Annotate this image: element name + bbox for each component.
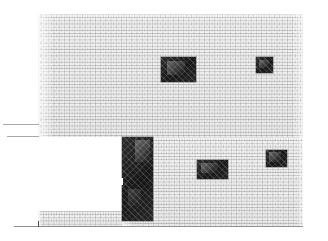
wall-fade-overlay: [38, 211, 123, 226]
window-lower-right: [266, 150, 287, 167]
door-reveal-notch: [120, 178, 123, 185]
door-glint: [135, 140, 150, 162]
entrance-door: [122, 137, 153, 221]
datum-line-upper: [3, 124, 39, 125]
window-upper-right: [256, 57, 273, 73]
datum-line-lower: [7, 136, 39, 137]
ground-line: [14, 226, 303, 227]
window-glint: [269, 152, 281, 162]
wall-plinth: [38, 211, 123, 226]
window-glint: [259, 60, 268, 69]
door-glint-lower: [128, 189, 140, 206]
window-lower-centre: [197, 160, 228, 179]
window-upper-left: [161, 57, 196, 82]
ground-tick-mark: [38, 221, 39, 227]
window-glint: [201, 163, 218, 173]
window-glint: [167, 61, 185, 76]
elevation-drawing: [0, 0, 328, 241]
